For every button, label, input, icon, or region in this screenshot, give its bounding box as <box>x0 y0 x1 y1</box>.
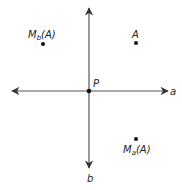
point-mb-a <box>41 42 45 46</box>
axis-a-label: a <box>170 86 176 97</box>
point-p <box>87 89 92 94</box>
point-ma-a <box>134 137 138 141</box>
point-p-label: P <box>93 78 100 89</box>
reflection-diagram: a b P A Mb(A) Ma(A) <box>0 0 182 190</box>
point-a-label: A <box>131 29 139 40</box>
point-a <box>134 41 138 45</box>
axis-b-label: b <box>87 173 93 184</box>
point-mb-a-label: Mb(A) <box>28 29 56 42</box>
point-ma-a-label: Ma(A) <box>123 144 151 157</box>
